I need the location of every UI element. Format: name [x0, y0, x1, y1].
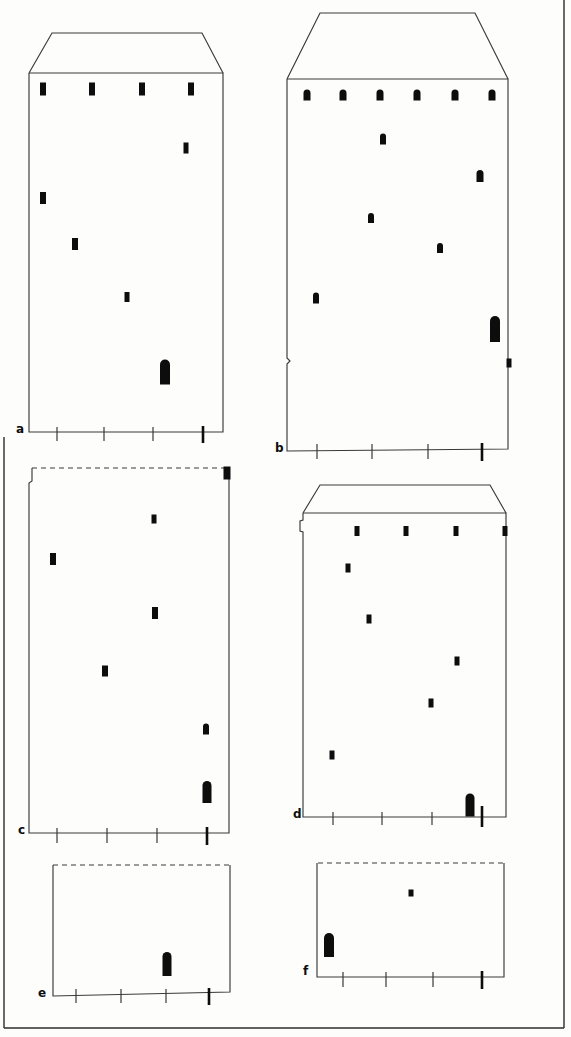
spot [477, 170, 484, 182]
spot [409, 890, 414, 897]
tlc-panel-f: f [303, 863, 504, 989]
spot [40, 83, 46, 96]
panel-b-body [287, 79, 508, 451]
spot [152, 515, 157, 524]
spot [40, 192, 46, 204]
spot [455, 657, 460, 666]
spot [414, 90, 421, 101]
spot [330, 751, 335, 760]
spot [346, 564, 351, 573]
figure-frame [4, 0, 564, 1028]
spot [437, 243, 443, 253]
spot [160, 360, 170, 385]
panel-label-e: e [38, 986, 46, 1000]
spot [490, 316, 500, 342]
spot [324, 933, 334, 957]
spot [340, 90, 347, 101]
spot [429, 699, 434, 708]
panel-label-b: b [275, 441, 284, 455]
spot [139, 83, 145, 96]
panel-label-c: c [18, 823, 25, 837]
panel-d-roof [303, 485, 506, 513]
scanned-figure-page: abcdef [0, 0, 571, 1037]
spot [188, 83, 194, 96]
spot [184, 143, 189, 154]
panel-d-body [300, 513, 506, 817]
spot [163, 952, 172, 976]
spot [125, 292, 130, 302]
spot [50, 553, 56, 565]
panel-a-body [29, 73, 223, 432]
panel-label-f: f [303, 964, 309, 978]
spot [466, 794, 475, 817]
panel-f-body [317, 863, 504, 977]
spot [304, 90, 311, 101]
tlc-panel-e: e [38, 865, 230, 1005]
spot [102, 666, 108, 677]
spot [507, 359, 512, 368]
spot [377, 90, 384, 101]
panel-label-d: d [293, 807, 302, 821]
panel-b-roof [287, 13, 508, 79]
spot [368, 213, 374, 223]
spot [152, 607, 158, 619]
tlc-panel-a: a [16, 33, 223, 443]
tlc-panel-b: b [275, 13, 512, 461]
spot [89, 83, 95, 96]
spot [489, 90, 496, 101]
spot [404, 526, 409, 536]
panel-c-body [29, 468, 229, 833]
spot [452, 90, 459, 101]
panel-e-body [53, 865, 230, 996]
spot [203, 724, 209, 735]
spot [313, 293, 319, 304]
figure-svg: abcdef [0, 0, 571, 1037]
spot [203, 781, 212, 803]
panel-label-a: a [16, 422, 24, 436]
spot [224, 467, 231, 480]
tlc-panel-c: c [18, 467, 231, 846]
spot [367, 615, 372, 624]
spot [380, 134, 386, 145]
spot [72, 238, 78, 250]
tlc-panel-d: d [293, 485, 508, 827]
panel-a-roof [29, 33, 223, 73]
spot [503, 526, 508, 536]
spot [454, 526, 459, 536]
spot [355, 526, 360, 536]
